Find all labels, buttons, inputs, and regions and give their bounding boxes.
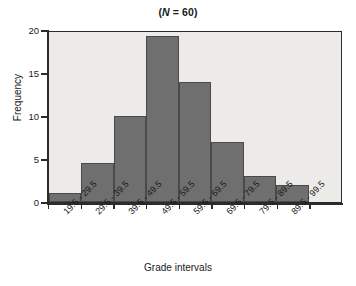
x-axis-tick-label: 79.5 - 89.5 (258, 180, 295, 217)
x-axis-tick (211, 204, 212, 209)
x-axis-tick-label: 59.5 - 69.5 (192, 180, 229, 217)
x-axis-tick-label: 69.5 - 79.5 (225, 180, 262, 217)
x-axis-tick-label: 29.5 - 39.5 (94, 180, 131, 217)
y-axis-tick (41, 116, 47, 117)
x-axis-tick-group: 19.5 - 29.529.5 - 39.539.5 - 49.549.5 - … (0, 0, 356, 286)
x-axis-tick (179, 204, 180, 209)
x-axis-tick-label: 19.5 - 29.5 (62, 180, 99, 217)
x-axis-tick (113, 204, 114, 209)
x-axis-tick (309, 204, 310, 209)
x-axis-tick-label: 39.5 - 49.5 (127, 180, 164, 217)
x-axis-tick-label: 89.5 - 99.5 (290, 180, 327, 217)
x-axis-tick (277, 204, 278, 209)
x-axis-tick-label: 49.5 - 59.5 (160, 180, 197, 217)
x-axis-tick (81, 204, 82, 209)
y-axis-tick (41, 30, 47, 31)
y-axis-tick (41, 202, 47, 203)
x-axis-tick (48, 204, 49, 209)
y-axis-tick (41, 159, 47, 160)
x-axis-title: Grade intervals (0, 262, 356, 273)
y-axis-tick (41, 73, 47, 74)
histogram-figure: (N = 60) 05101520 Frequency 19.5 - 29.52… (0, 0, 356, 286)
x-axis-tick (244, 204, 245, 209)
x-axis-tick (146, 204, 147, 209)
